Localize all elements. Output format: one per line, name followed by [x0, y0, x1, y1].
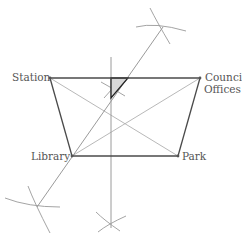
shaded-region [111, 78, 128, 98]
arc-vertical-bottom-b [98, 216, 126, 232]
arc-bottom-b [5, 198, 60, 207]
library-point [71, 155, 74, 158]
arc-vertical-bottom-a [96, 212, 120, 231]
park-point [177, 155, 180, 158]
park-label: Park [182, 150, 207, 162]
library-label: Library [31, 150, 70, 162]
council-offices-point [199, 77, 202, 80]
oblique-bisector-line [37, 27, 163, 207]
council-offices-label-line1: Council [205, 71, 242, 83]
station-label: Station [12, 71, 51, 83]
construction-diagram: Station Council Offices Library Park [0, 0, 242, 237]
council-offices-label-line2: Offices [204, 83, 241, 95]
